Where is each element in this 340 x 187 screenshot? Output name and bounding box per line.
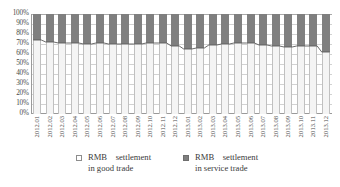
- bar-slot: [207, 14, 220, 114]
- legend-swatch-service-trade-icon: [183, 155, 189, 161]
- bar-segment-service-trade: [259, 14, 267, 45]
- x-axis-tick-slot: 2013.01: [182, 115, 195, 155]
- bar-slot: [244, 14, 257, 114]
- stacked-bar: [146, 14, 154, 114]
- bar-group: [31, 14, 332, 114]
- legend-label-service-trade-line2: in service trade: [195, 163, 258, 174]
- x-axis-tick-label: 2013.05: [235, 116, 242, 137]
- bar-segment-good-trade: [247, 43, 255, 114]
- bar-segment-good-trade: [121, 44, 129, 114]
- y-axis: 0%10%20%30%40%50%60%70%80%90%100%: [0, 8, 30, 120]
- stacked-bar-chart: 0%10%20%30%40%50%60%70%80%90%100% 2012.0…: [0, 0, 340, 187]
- x-axis-tick-label: 2012.05: [84, 116, 91, 137]
- x-axis-tick-label: 2012.07: [109, 116, 116, 137]
- y-axis-tick-label: 60%: [16, 50, 29, 57]
- bar-slot: [182, 14, 195, 114]
- bar-segment-good-trade: [96, 43, 104, 114]
- y-axis-tick-label: 40%: [16, 70, 29, 77]
- y-axis-tick-label: 0%: [20, 110, 29, 117]
- x-axis-tick-slot: 2012.11: [156, 115, 169, 155]
- bar-segment-service-trade: [159, 14, 167, 43]
- stacked-bar: [109, 14, 117, 114]
- bar-slot: [320, 14, 333, 114]
- x-axis-tick-slot: 2013.05: [232, 115, 245, 155]
- bar-segment-service-trade: [46, 14, 54, 42]
- bar-segment-service-trade: [58, 14, 66, 43]
- bar-segment-service-trade: [234, 14, 242, 43]
- bar-segment-service-trade: [309, 14, 317, 46]
- bar-segment-service-trade: [33, 14, 41, 40]
- stacked-bar: [83, 14, 91, 114]
- bar-segment-good-trade: [134, 44, 142, 114]
- y-axis-tick-label: 100%: [13, 10, 29, 17]
- stacked-bar: [96, 14, 104, 114]
- x-axis-tick-label: 2013.03: [210, 116, 217, 137]
- stacked-bar: [134, 14, 142, 114]
- x-axis-tick-label: 2013.04: [222, 116, 229, 137]
- x-axis-tick-label: 2013.10: [297, 116, 304, 137]
- bar-segment-good-trade: [46, 42, 54, 114]
- bar-slot: [106, 14, 119, 114]
- x-axis-tick-slot: 2013.07: [257, 115, 270, 155]
- x-axis-tick-slot: 2013.06: [244, 115, 257, 155]
- y-axis-tick-label: 10%: [16, 100, 29, 107]
- bar-segment-service-trade: [171, 14, 179, 46]
- plot-area: [31, 14, 332, 114]
- stacked-bar: [171, 14, 179, 114]
- stacked-bar: [259, 14, 267, 114]
- bar-segment-good-trade: [259, 45, 267, 114]
- x-axis-tick-slot: 2012.09: [131, 115, 144, 155]
- bar-segment-good-trade: [71, 43, 79, 114]
- x-axis-tick-slot: 2013.04: [219, 115, 232, 155]
- bar-segment-service-trade: [184, 14, 192, 49]
- bar-segment-good-trade: [184, 49, 192, 114]
- x-axis-tick-slot: 2013.08: [269, 115, 282, 155]
- bar-segment-service-trade: [121, 14, 129, 44]
- y-axis-tick-label: 20%: [16, 90, 29, 97]
- x-axis-tick-label: 2013.08: [272, 116, 279, 137]
- bar-segment-good-trade: [159, 43, 167, 114]
- bar-segment-service-trade: [209, 14, 217, 45]
- stacked-bar: [297, 14, 305, 114]
- bar-slot: [232, 14, 245, 114]
- bar-slot: [282, 14, 295, 114]
- bar-slot: [307, 14, 320, 114]
- x-axis-tick-label: 2012.02: [47, 116, 54, 137]
- stacked-bar: [209, 14, 217, 114]
- bar-segment-good-trade: [297, 46, 305, 114]
- y-axis-tick-label: 80%: [16, 30, 29, 37]
- bar-slot: [119, 14, 132, 114]
- stacked-bar: [121, 14, 129, 114]
- bar-segment-service-trade: [83, 14, 91, 44]
- x-axis-tick-slot: 2012.10: [144, 115, 157, 155]
- x-axis-tick-label: 2013.11: [310, 116, 317, 137]
- x-axis-tick-slot: 2013.02: [194, 115, 207, 155]
- x-axis-tick-label: 2012.09: [134, 116, 141, 137]
- stacked-bar: [46, 14, 54, 114]
- bar-segment-good-trade: [284, 47, 292, 114]
- bar-segment-service-trade: [196, 14, 204, 48]
- bar-segment-good-trade: [109, 44, 117, 114]
- stacked-bar: [159, 14, 167, 114]
- y-axis-tick-label: 70%: [16, 40, 29, 47]
- legend-item-good-trade: RMB settlement in good trade: [76, 152, 151, 173]
- stacked-bar: [184, 14, 192, 114]
- bar-segment-good-trade: [146, 43, 154, 114]
- bar-slot: [294, 14, 307, 114]
- stacked-bar: [272, 14, 280, 114]
- stacked-bar: [196, 14, 204, 114]
- chart-legend: RMB settlement in good trade RMB settlem…: [0, 152, 340, 186]
- bar-segment-good-trade: [171, 46, 179, 114]
- x-axis-tick-slot: 2012.04: [69, 115, 82, 155]
- x-axis-tick-label: 2012.01: [34, 116, 41, 137]
- bar-segment-service-trade: [322, 14, 330, 52]
- x-axis-tick-label: 2013.01: [185, 116, 192, 137]
- x-axis-tick-slot: 2012.06: [94, 115, 107, 155]
- bar-slot: [44, 14, 57, 114]
- x-axis-tick-slot: 2012.12: [169, 115, 182, 155]
- bar-segment-service-trade: [272, 14, 280, 46]
- bar-segment-good-trade: [272, 46, 280, 114]
- stacked-bar: [33, 14, 41, 114]
- x-axis-tick-slot: 2012.05: [81, 115, 94, 155]
- x-axis-tick-label: 2012.06: [97, 116, 104, 137]
